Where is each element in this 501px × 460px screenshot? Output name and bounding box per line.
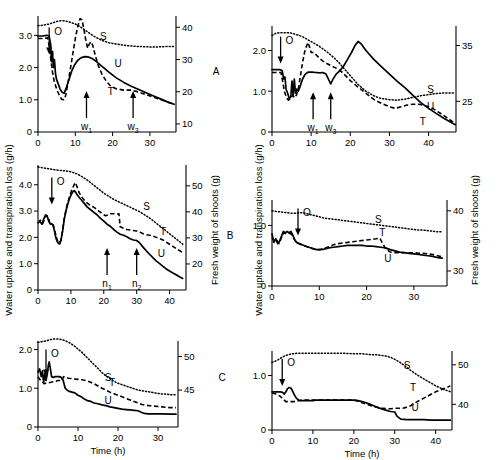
ytick-label-A-left-0: 0 <box>27 126 32 137</box>
annotation-label-n1-B-left: n1 <box>102 278 112 291</box>
ytick-label-B-left-2: 2.0 <box>19 232 32 243</box>
y2tick-label-B-left-0: 20 <box>192 258 203 269</box>
y2tick-label-C-right-1: 50 <box>458 359 469 370</box>
axis-title-left-2: Water uptake and transpiration loss (g/h… <box>253 144 264 315</box>
y2tick-label-C-left-0: 45 <box>184 384 195 395</box>
series-T-A-right <box>272 42 455 124</box>
ytick-label-B-left-3: 3.0 <box>19 205 32 216</box>
arrowhead-n1-B-left <box>104 248 110 255</box>
xtick-label-B-left-3: 30 <box>131 295 142 306</box>
annotation-label-O-C-left: O <box>51 348 59 359</box>
curve-label-U-C-left: U <box>104 395 111 406</box>
xtick-label-B-right-2: 20 <box>361 291 372 302</box>
xtick-label-B-right-1: 10 <box>314 291 325 302</box>
xtick-label-C-left-2: 20 <box>113 432 124 443</box>
axis-title-x-left: Time (h) <box>90 445 125 456</box>
y2tick-label-A-left-3: 40 <box>182 22 193 33</box>
xtick-label-C-right-3: 30 <box>389 435 400 446</box>
arrowhead-O-C-right <box>279 379 285 386</box>
axis-title-left: Water uptake and transpiration loss (g/h… <box>3 144 14 315</box>
annotation-label-O-A-left: O <box>54 26 62 37</box>
xtick-label-A-right-3: 30 <box>384 137 395 148</box>
curve-label-S-B-left: S <box>143 201 150 212</box>
annotation-label-w3-A-right: w3 <box>324 122 336 135</box>
arrowhead-w1-A-left <box>83 91 89 98</box>
xtick-label-C-left-3: 30 <box>153 432 164 443</box>
ytick-label-A-right-0: 0 <box>261 126 266 137</box>
curve-label-S-A-right: S <box>427 84 434 95</box>
xtick-label-B-left-4: 40 <box>164 295 175 306</box>
ytick-label-A-left-2: 2.0 <box>19 62 32 73</box>
xtick-label-A-right-1: 10 <box>306 137 317 148</box>
curve-label-S-C-right: S <box>404 360 411 371</box>
curve-label-T-C-left: T <box>109 377 115 388</box>
y2tick-label-B-right-1: 40 <box>453 205 464 216</box>
y2tick-label-A-left-0: 10 <box>182 118 193 129</box>
ytick-label-B-left-1: 1.0 <box>19 258 32 269</box>
annotation-label-n2-B-left: n2 <box>132 278 142 291</box>
curve-label-U-B-right: U <box>384 253 391 264</box>
curve-label-U-A-right: U <box>427 101 434 112</box>
series-T-B-left <box>38 183 183 253</box>
annotation-label-O-B-right: O <box>303 207 311 218</box>
arrowhead-w3-A-right <box>328 92 334 99</box>
y2tick-label-C-right-0: 40 <box>458 399 469 410</box>
ytick-label-A-right-2: 2.0 <box>253 45 266 56</box>
ytick-label-C-left-1: 1.0 <box>19 383 32 394</box>
y2tick-label-A-right-0: 25 <box>462 96 473 107</box>
xtick-label-A-left-0: 0 <box>35 137 40 148</box>
xtick-label-C-right-1: 10 <box>308 435 319 446</box>
xtick-label-A-right-0: 0 <box>269 137 274 148</box>
curve-label-S-B-right: S <box>375 214 382 225</box>
panel-letter-B: B <box>227 230 234 241</box>
axis-title-right: Fresh weight of shoots (g) <box>209 175 220 285</box>
curve-label-U-B-left: U <box>158 248 165 259</box>
curve-label-S-A-left: S <box>100 31 107 42</box>
ytick-label-A-left-1: 1.0 <box>19 94 32 105</box>
xtick-label-B-left-1: 10 <box>66 295 77 306</box>
annotation-label-O-A-right: O <box>286 35 294 46</box>
series-U-B-right <box>272 231 442 258</box>
y2tick-label-B-left-1: 30 <box>192 232 203 243</box>
series-T-C-right <box>272 386 450 409</box>
ytick-label-B-left-4: 4.0 <box>19 179 32 190</box>
annotation-label-O-B-left: O <box>57 176 65 187</box>
xtick-label-A-right-2: 20 <box>345 137 356 148</box>
xtick-label-A-left-2: 20 <box>107 137 118 148</box>
arrowhead-w1-A-right <box>310 92 316 99</box>
xtick-label-B-right-0: 0 <box>269 291 274 302</box>
multi-panel-line-chart: 01.02.03.0102030400102030UTSOw1w301.02.0… <box>0 0 501 460</box>
ytick-label-B-left-0: 0 <box>27 284 32 295</box>
ytick-label-C-left-2: 2.0 <box>19 344 32 355</box>
axis-title-x-right: Time (h) <box>344 448 379 459</box>
arrowhead-O-B-left <box>49 198 55 205</box>
ytick-label-C-right-0: 0 <box>261 424 266 435</box>
ytick-label-C-left-0: 0 <box>27 421 32 432</box>
y2tick-label-A-left-1: 20 <box>182 86 193 97</box>
curve-label-T-A-right: T <box>420 116 426 127</box>
series-U-C-right <box>272 388 450 421</box>
curve-label-T-C-right: T <box>410 382 416 393</box>
ytick-label-A-right-1: 1.0 <box>253 86 266 97</box>
series-U-A-right <box>272 41 455 124</box>
ytick-label-C-right-1: 1.0 <box>253 370 266 381</box>
curve-label-T-A-left: T <box>108 86 114 97</box>
y2tick-label-B-left-3: 50 <box>192 180 203 191</box>
annotation-label-O-C-right: O <box>287 357 295 368</box>
y2tick-label-A-left-2: 30 <box>182 54 193 65</box>
xtick-label-C-left-1: 10 <box>73 432 84 443</box>
panel-letter-C: C <box>218 372 225 383</box>
arrowhead-w3-A-left <box>130 91 136 98</box>
arrowhead-O-B-right <box>295 229 301 236</box>
y2tick-label-B-left-2: 40 <box>192 206 203 217</box>
panel-letter-A: A <box>213 66 220 77</box>
xtick-label-C-right-0: 0 <box>269 435 274 446</box>
axis-left-bottom-C-right <box>272 351 452 430</box>
axis-title-right-2: Fresh weight of shoots (g) <box>469 175 480 285</box>
xtick-label-A-left-3: 30 <box>145 137 156 148</box>
annotation-label-w1-A-right: w1 <box>307 122 319 135</box>
curve-label-U-A-left: U <box>115 58 122 69</box>
xtick-label-C-right-2: 20 <box>349 435 360 446</box>
xtick-label-C-right-4: 40 <box>430 435 441 446</box>
xtick-label-B-left-2: 20 <box>98 295 109 306</box>
